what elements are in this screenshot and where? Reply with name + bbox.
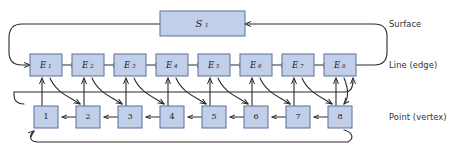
vertex-node-3[interactable]: 3 (118, 106, 142, 128)
vertex-node-4[interactable]: 4 (160, 106, 184, 128)
edge-node-E3[interactable]: E 3 (114, 54, 146, 76)
tier-label-line-edge: Line (edge) (389, 60, 437, 70)
vertex-node-label: 7 (295, 112, 300, 121)
edge-node-label: E (81, 60, 89, 70)
diagram-canvas: S 1 (0, 0, 461, 156)
vertex-node-5[interactable]: 5 (202, 106, 226, 128)
edge-node-label: E (165, 60, 173, 70)
edge-node-E5[interactable]: E 5 (198, 54, 230, 76)
edge-node-E6[interactable]: E 6 (240, 54, 272, 76)
edge-node-E4[interactable]: E 4 (156, 54, 188, 76)
vertex-node-label: 6 (253, 112, 258, 121)
edge-node-label: E (207, 60, 215, 70)
edge-node-sublabel: 3 (132, 63, 136, 69)
vertex-node-label: 2 (85, 112, 90, 121)
surface-node-sublabel: 1 (205, 22, 209, 28)
surface-node-label: S (196, 18, 203, 29)
edge-node-sublabel: 5 (216, 63, 220, 69)
vertex-node-label: 1 (43, 112, 48, 121)
edge-node-sublabel: 6 (258, 63, 262, 69)
edge-node-label: E (291, 60, 299, 70)
vertex-node-label: 3 (127, 112, 132, 121)
edge-node-label: E (39, 60, 47, 70)
vertex-node-7[interactable]: 7 (286, 106, 310, 128)
tier-label-point-vertex: Point (vertex) (389, 112, 447, 122)
edge-node-sublabel: 8 (342, 63, 346, 69)
edge-node-E1[interactable]: E 1 (30, 54, 62, 76)
edge-node-E2[interactable]: E 2 (72, 54, 104, 76)
connector-vertex8-to-vertex1-bottom-loop (31, 130, 352, 142)
vertex-node-8[interactable]: 8 (328, 106, 352, 128)
vertex-node-label: 4 (169, 112, 174, 121)
connector-vertex-ring-to-edge8 (14, 78, 353, 104)
edge-node-sublabel: 7 (300, 63, 304, 69)
vertex-node-1[interactable]: 1 (34, 106, 58, 128)
tier-label-surface: Surface (389, 19, 421, 29)
vertex-node-label: 5 (211, 112, 216, 121)
vertex-node-6[interactable]: 6 (244, 106, 268, 128)
edge-node-E8[interactable]: E 8 (324, 54, 356, 76)
connector-edge-to-next-vertex (50, 78, 348, 104)
edge-node-sublabel: 1 (48, 63, 52, 69)
edge-node-label: E (333, 60, 341, 70)
vertex-node-2[interactable]: 2 (76, 106, 100, 128)
edge-node-label: E (249, 60, 257, 70)
edge-node-sublabel: 4 (173, 63, 178, 69)
edge-node-sublabel: 2 (89, 63, 94, 69)
edge-node-label: E (123, 60, 131, 70)
vertex-node-label: 8 (337, 112, 342, 121)
edge-node-E7[interactable]: E 7 (282, 54, 314, 76)
surface-node-S1[interactable]: S 1 (160, 11, 245, 36)
